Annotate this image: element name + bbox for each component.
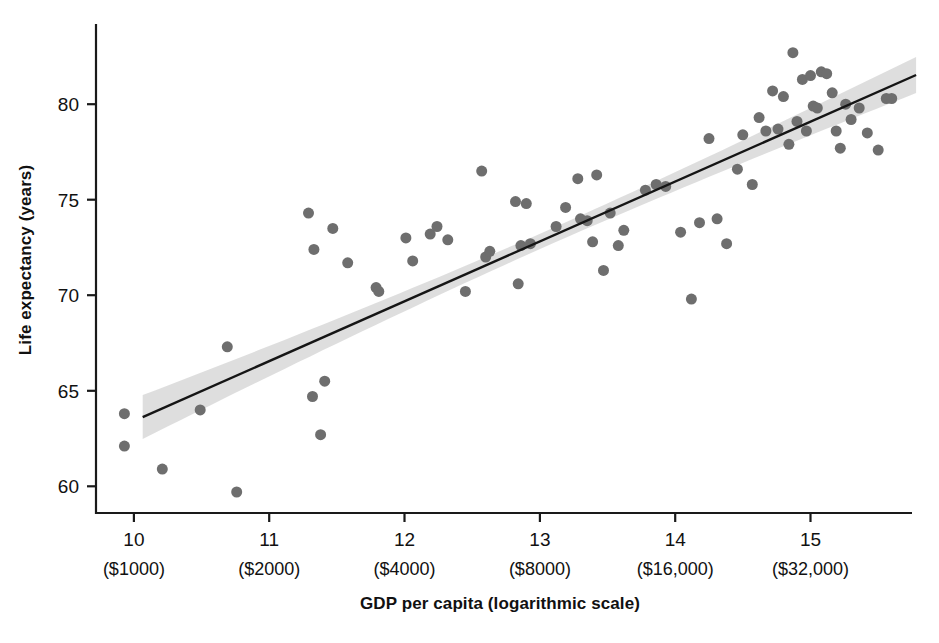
data-point [747,179,758,190]
data-point [778,91,789,102]
x-axis-title: GDP per capita (logarithmic scale) [360,594,640,613]
data-point [846,114,857,125]
y-tick-label: 70 [58,285,79,306]
data-point [587,236,598,247]
x-tick-sublabel: ($2000) [238,559,300,579]
data-point [783,139,794,150]
x-tick-sublabel: ($1000) [103,559,165,579]
data-point [821,68,832,79]
x-tick-sublabel: ($16,000) [637,559,714,579]
y-tick-label: 60 [58,476,79,497]
axes [96,24,912,513]
data-point [327,223,338,234]
data-point [373,286,384,297]
figure-container: 10($1000)11($2000)12($4000)13($8000)14($… [0,0,939,643]
data-point [510,196,521,207]
data-point [737,129,748,140]
x-tick-sublabel: ($4000) [373,559,435,579]
data-point [873,145,884,156]
data-point [721,238,732,249]
data-point [704,133,715,144]
data-point [222,341,233,352]
data-point [432,221,443,232]
data-point [835,143,846,154]
data-point [119,408,130,419]
data-point [760,126,771,137]
data-point [754,112,765,123]
data-point [591,169,602,180]
x-tick-sublabel: ($8000) [509,559,571,579]
x-tick-label: 15 [800,529,821,550]
data-point [521,198,532,209]
x-tick-label: 14 [665,529,687,550]
data-point [342,257,353,268]
data-point [805,70,816,81]
data-point [831,126,842,137]
data-point [854,103,865,114]
data-point [560,202,571,213]
data-point [613,240,624,251]
data-point [513,278,524,289]
data-point [862,127,873,138]
x-axis-ticks: 10($1000)11($2000)12($4000)13($8000)14($… [103,513,849,579]
x-tick-sublabel: ($32,000) [772,559,849,579]
data-point [442,234,453,245]
data-point [319,376,330,387]
data-point [307,391,318,402]
data-point [598,265,609,276]
data-point [303,208,314,219]
data-point [732,164,743,175]
data-point [315,429,326,440]
data-point [157,464,168,475]
data-point [476,166,487,177]
data-point [572,173,583,184]
y-tick-label: 75 [58,190,79,211]
data-point [460,286,471,297]
x-tick-label: 11 [259,529,279,550]
data-point [195,404,206,415]
data-point [694,217,705,228]
data-point [812,103,823,114]
x-tick-label: 10 [123,529,144,550]
x-tick-label: 12 [394,529,415,550]
data-point [551,221,562,232]
data-point [618,225,629,236]
data-point [686,294,697,305]
data-point [119,441,130,452]
data-point [767,85,778,96]
data-point [308,244,319,255]
y-tick-label: 80 [58,94,79,115]
x-tick-label: 13 [529,529,550,550]
data-point [400,232,411,243]
data-point [675,227,686,238]
data-point [773,124,784,135]
data-point [886,93,897,104]
scatter-plot: 10($1000)11($2000)12($4000)13($8000)14($… [0,0,939,643]
trend-line [143,75,916,417]
data-point [801,126,812,137]
data-point [231,487,242,498]
data-point [407,255,418,266]
data-point [787,47,798,58]
data-point [827,87,838,98]
y-tick-label: 65 [58,381,79,402]
y-axis-ticks: 6065707580 [58,94,96,497]
data-points [119,47,897,497]
data-point [484,246,495,257]
data-point [712,213,723,224]
